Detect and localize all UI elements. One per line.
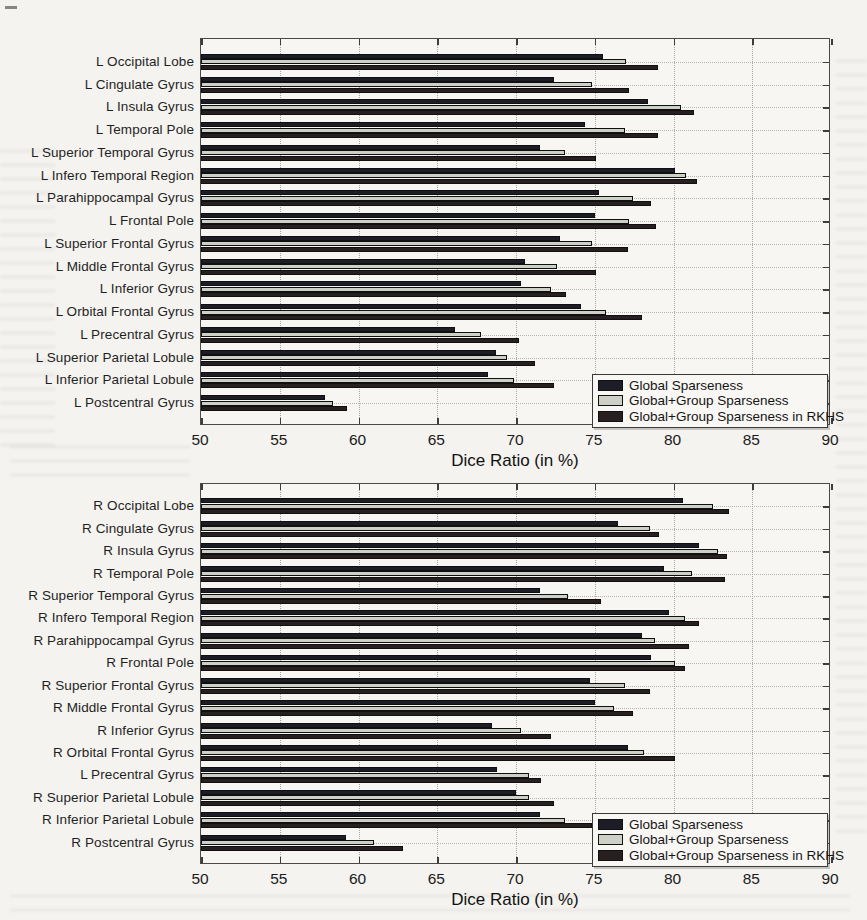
bar-global-group-sparseness [201, 728, 521, 733]
bar-global-group-sparseness [201, 795, 529, 800]
x-tick-label: 50 [191, 870, 208, 888]
bar-global-group-sparseness [201, 594, 568, 599]
gridline [674, 484, 675, 863]
legend-entry: Global Sparseness [598, 817, 821, 832]
y-tick [823, 663, 829, 665]
x-tick [516, 484, 518, 490]
x-axis-label: Dice Ratio (in %) [451, 890, 579, 910]
y-tick [823, 641, 829, 643]
x-tick [674, 484, 676, 490]
category-label: R Occipital Lobe [0, 498, 194, 513]
bar-global-sparseness [201, 566, 664, 571]
bar-global-group-sparseness [201, 661, 675, 666]
bar-global-group-sparseness-in-rkhs [201, 554, 727, 559]
x-tick-label: 75 [585, 870, 602, 888]
bar-global-sparseness [201, 745, 628, 750]
bar-global-sparseness [201, 655, 651, 660]
bar-global-group-sparseness-in-rkhs [201, 577, 725, 582]
bar-global-sparseness [201, 790, 516, 795]
gridline [280, 484, 281, 863]
y-tick [823, 506, 829, 508]
y-tick [823, 775, 829, 777]
x-tick-label: 60 [349, 870, 366, 888]
bar-global-sparseness [201, 521, 618, 526]
bar-global-group-sparseness-in-rkhs [201, 778, 541, 783]
x-tick [595, 484, 597, 490]
y-tick [823, 798, 829, 800]
bar-global-group-sparseness-in-rkhs [201, 734, 551, 739]
bar-global-group-sparseness [201, 683, 625, 688]
bar-global-group-sparseness [201, 549, 718, 554]
bar-global-sparseness [201, 498, 683, 503]
bar-global-group-sparseness [201, 526, 650, 531]
category-label: R Inferior Parietal Lobule [0, 812, 194, 827]
category-label: R Superior Parietal Lobule [0, 789, 194, 804]
bar-global-group-sparseness-in-rkhs [201, 756, 675, 761]
bar-global-group-sparseness [201, 571, 692, 576]
y-tick [823, 574, 829, 576]
legend-label: Global+Group Sparseness in RKHS [629, 848, 844, 863]
y-tick [823, 618, 829, 620]
bar-global-group-sparseness-in-rkhs [201, 689, 650, 694]
legend: Global SparsenessGlobal+Group Sparseness… [592, 813, 828, 867]
bar-global-group-sparseness-in-rkhs [201, 509, 729, 514]
category-label: R Orbital Frontal Gyrus [0, 744, 194, 759]
bar-global-sparseness [201, 700, 595, 705]
bar-global-group-sparseness-in-rkhs [201, 711, 633, 716]
x-tick [516, 857, 518, 863]
x-tick [437, 484, 439, 490]
category-label: R Parahippocampal Gyrus [0, 632, 194, 647]
category-label: R Postcentral Gyrus [0, 834, 194, 849]
bar-global-group-sparseness [201, 750, 644, 755]
legend-label: Global+Group Sparseness [629, 832, 788, 847]
x-tick [359, 857, 361, 863]
x-tick-label: 90 [821, 870, 838, 888]
bar-global-group-sparseness-in-rkhs [201, 846, 403, 851]
bar-global-group-sparseness-in-rkhs [201, 666, 685, 671]
category-label: R Frontal Pole [0, 655, 194, 670]
legend-label: Global Sparseness [629, 817, 743, 832]
bar-global-sparseness [201, 767, 497, 772]
bar-global-group-sparseness [201, 840, 374, 845]
gridline [516, 484, 517, 863]
category-label: R Middle Frontal Gyrus [0, 700, 194, 715]
x-tick [280, 484, 282, 490]
bar-global-group-sparseness-in-rkhs [201, 599, 601, 604]
bar-global-group-sparseness [201, 504, 713, 509]
bar-global-group-sparseness-in-rkhs [201, 644, 689, 649]
bar-global-group-sparseness [201, 706, 614, 711]
y-tick [823, 596, 829, 598]
x-tick [831, 484, 833, 490]
x-tick [359, 484, 361, 490]
x-tick [201, 857, 203, 863]
x-tick-label: 80 [664, 870, 681, 888]
plot-area [200, 483, 830, 864]
y-tick [823, 731, 829, 733]
x-tick [201, 484, 203, 490]
legend-swatch [598, 834, 623, 845]
category-label: R Cingulate Gyrus [0, 520, 194, 535]
legend-entry: Global+Group Sparseness [598, 832, 821, 847]
y-tick [823, 686, 829, 688]
category-label: R Superior Temporal Gyrus [0, 588, 194, 603]
bar-global-sparseness [201, 812, 540, 817]
right-hemisphere-dice-chart: R Occipital LobeR Cingulate GyrusR Insul… [0, 0, 867, 920]
bar-global-sparseness [201, 678, 590, 683]
bar-global-sparseness [201, 835, 346, 840]
bar-global-group-sparseness-in-rkhs [201, 532, 659, 537]
bar-global-sparseness [201, 723, 492, 728]
x-tick-label: 70 [506, 870, 523, 888]
bar-global-group-sparseness [201, 818, 565, 823]
gridline [752, 484, 753, 863]
category-label: R Temporal Pole [0, 565, 194, 580]
bar-global-group-sparseness-in-rkhs [201, 801, 554, 806]
category-label: R Insula Gyrus [0, 543, 194, 558]
gridline [359, 484, 360, 863]
y-tick [823, 551, 829, 553]
x-tick [280, 857, 282, 863]
category-label: R Inferior Gyrus [0, 722, 194, 737]
bar-global-group-sparseness-in-rkhs [201, 621, 699, 626]
bar-global-sparseness [201, 633, 642, 638]
legend-swatch [598, 819, 623, 830]
gridline [595, 484, 596, 863]
